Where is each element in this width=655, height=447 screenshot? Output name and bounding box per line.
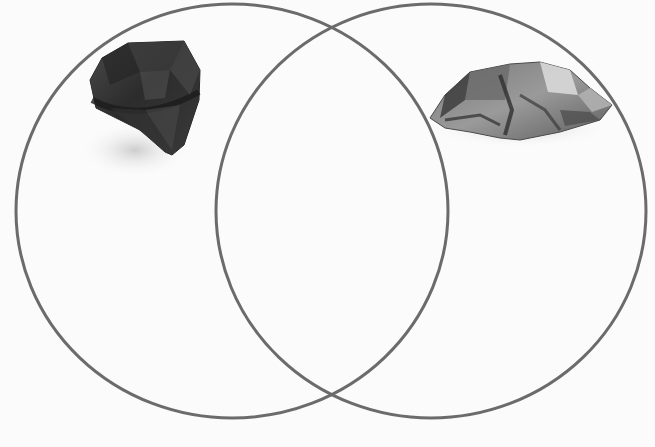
cut-gemstone-icon	[80, 41, 200, 178]
venn-set-right	[216, 4, 646, 418]
venn-set-left	[16, 4, 448, 418]
venn-diagram	[0, 0, 655, 447]
rough-crystal-icon	[430, 62, 612, 148]
venn-canvas	[0, 0, 655, 447]
